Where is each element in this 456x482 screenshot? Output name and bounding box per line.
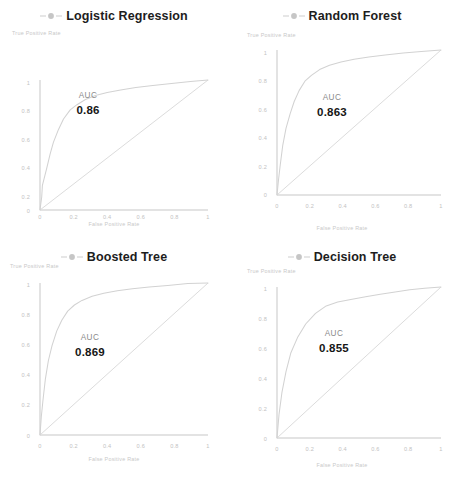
chance-line [40, 283, 208, 435]
svg-text:0.2: 0.2 [306, 203, 314, 209]
svg-text:1: 1 [439, 446, 442, 452]
y-axis-label: True Positive Rate [12, 31, 61, 36]
y-axis-ticks: 1 0.8 0.6 0.4 0.2 0 [259, 286, 267, 442]
panel-header: Logistic Regression [0, 8, 228, 24]
auc-annotation: AUC 0.863 [300, 94, 364, 118]
y-axis-label: True Positive Rate [10, 264, 59, 269]
svg-text:0.2: 0.2 [69, 443, 77, 449]
auc-label: AUC [302, 330, 366, 339]
page-title: Decision Tree [314, 251, 397, 264]
auc-value: 0.869 [58, 346, 122, 358]
page-title: Random Forest [309, 10, 402, 23]
svg-text:0.4: 0.4 [103, 214, 111, 220]
svg-text:0.8: 0.8 [22, 312, 30, 318]
svg-text:0.2: 0.2 [69, 214, 77, 220]
y-axis-ticks: 1 0.8 0.6 0.4 0.2 0 [259, 50, 267, 199]
svg-text:0: 0 [275, 203, 278, 209]
x-axis-label: False Positive Rate [228, 226, 456, 231]
x-axis-ticks: 0 0.2 0.4 0.6 0.8 1 [38, 443, 209, 449]
svg-text:0.6: 0.6 [259, 107, 267, 113]
svg-text:0.2: 0.2 [259, 164, 267, 170]
svg-text:1: 1 [264, 50, 267, 56]
plot-area: 1 0.8 0.6 0.4 0.2 0 0 0.2 0.4 0.6 0.8 1 [0, 270, 228, 455]
roc-panel-logistic-regression: Logistic Regression True Positive Rate 1… [0, 0, 228, 241]
plot-area: 1 0.8 0.6 0.4 0.2 0 0 0.2 0.4 0.6 0.8 1 [228, 275, 456, 460]
svg-text:0: 0 [27, 433, 30, 439]
dash-circle-dash-icon [40, 11, 62, 21]
svg-text:0.4: 0.4 [259, 135, 267, 141]
auc-label: AUC [58, 334, 122, 343]
svg-text:0.6: 0.6 [259, 346, 267, 352]
y-axis-ticks: 1 0.8 0.6 0.4 0.2 0 [22, 80, 30, 214]
x-axis-ticks: 0 0.2 0.4 0.6 0.8 1 [275, 203, 442, 209]
svg-text:1: 1 [206, 214, 209, 220]
svg-text:0.4: 0.4 [338, 203, 346, 209]
y-axis-label: True Positive Rate [247, 269, 296, 274]
svg-text:0.4: 0.4 [22, 165, 30, 171]
chance-line [277, 50, 441, 195]
svg-text:0.6: 0.6 [371, 203, 379, 209]
panel-header: Random Forest [228, 8, 456, 24]
svg-text:0.2: 0.2 [259, 406, 267, 412]
plot-area: 1 0.8 0.6 0.4 0.2 0 0 0.2 0.4 0.6 0.8 1 [228, 40, 456, 220]
auc-value: 0.86 [58, 104, 118, 116]
x-axis-label: False Positive Rate [0, 457, 228, 462]
roc-panel-random-forest: Random Forest True Positive Rate 1 0.8 0… [228, 0, 456, 241]
svg-text:1: 1 [439, 203, 442, 209]
x-axis-ticks: 0 0.2 0.4 0.6 0.8 1 [38, 214, 209, 220]
page-title: Boosted Tree [87, 251, 167, 264]
chance-line [277, 287, 441, 438]
svg-text:0.8: 0.8 [404, 446, 412, 452]
svg-text:0.8: 0.8 [259, 316, 267, 322]
svg-text:0.8: 0.8 [404, 203, 412, 209]
svg-text:0.8: 0.8 [170, 214, 178, 220]
svg-text:0.6: 0.6 [22, 137, 30, 143]
svg-text:1: 1 [27, 282, 30, 288]
auc-label: AUC [300, 94, 364, 103]
x-axis-label: False Positive Rate [0, 222, 228, 227]
page-title: Logistic Regression [66, 10, 187, 23]
x-axis-ticks: 0 0.2 0.4 0.6 0.8 1 [275, 446, 442, 452]
svg-text:0.4: 0.4 [103, 443, 111, 449]
svg-text:0: 0 [264, 436, 267, 442]
svg-text:0.2: 0.2 [22, 402, 30, 408]
auc-annotation: AUC 0.869 [58, 334, 122, 358]
roc-panel-grid: Logistic Regression True Positive Rate 1… [0, 0, 456, 482]
roc-panel-boosted-tree: Boosted Tree True Positive Rate 1 0.8 0.… [0, 241, 228, 482]
svg-text:1: 1 [206, 443, 209, 449]
svg-text:0: 0 [38, 214, 41, 220]
svg-text:0.6: 0.6 [22, 342, 30, 348]
svg-text:0.6: 0.6 [137, 214, 145, 220]
svg-text:0: 0 [264, 192, 267, 198]
svg-text:0.4: 0.4 [338, 446, 346, 452]
svg-text:0.2: 0.2 [306, 446, 314, 452]
plot-area: 1 0.8 0.6 0.4 0.2 0 0 0.2 0.4 0.6 0.8 1 [0, 38, 228, 218]
svg-text:0.6: 0.6 [371, 446, 379, 452]
svg-text:0: 0 [38, 443, 41, 449]
svg-text:0.6: 0.6 [137, 443, 145, 449]
svg-text:0.2: 0.2 [22, 194, 30, 200]
auc-value: 0.863 [300, 106, 364, 118]
svg-text:0.4: 0.4 [22, 372, 30, 378]
svg-text:0.8: 0.8 [259, 78, 267, 84]
dash-circle-dash-icon [61, 252, 83, 262]
svg-text:0: 0 [27, 208, 30, 214]
roc-panel-decision-tree: Decision Tree True Positive Rate 1 0.8 0… [228, 241, 456, 482]
svg-text:0: 0 [275, 446, 278, 452]
y-axis-ticks: 1 0.8 0.6 0.4 0.2 0 [22, 282, 30, 439]
y-axis-label: True Positive Rate [247, 33, 296, 38]
svg-text:0.8: 0.8 [170, 443, 178, 449]
dash-circle-dash-icon [283, 11, 305, 21]
auc-value: 0.855 [302, 342, 366, 354]
auc-annotation: AUC 0.855 [302, 330, 366, 354]
dash-circle-dash-icon [288, 252, 310, 262]
svg-text:0.8: 0.8 [22, 108, 30, 114]
svg-text:0.4: 0.4 [259, 376, 267, 382]
x-axis-label: False Positive Rate [228, 463, 456, 468]
auc-label: AUC [58, 92, 118, 101]
svg-text:1: 1 [27, 80, 30, 86]
auc-annotation: AUC 0.86 [58, 92, 118, 116]
panel-header: Decision Tree [228, 249, 456, 265]
svg-text:1: 1 [264, 286, 267, 292]
